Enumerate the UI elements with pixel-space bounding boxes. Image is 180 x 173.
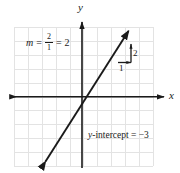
y-axis-label: y: [78, 2, 83, 13]
run-tick-label: 1: [119, 64, 124, 73]
slope-run: 1: [45, 43, 53, 52]
intercept-value: −3: [139, 130, 149, 140]
coordinate-plane-figure: y x m = 2 1 = 2 2 1 y-intercept = −3: [0, 0, 180, 173]
slope-fraction: 2 1: [45, 33, 53, 52]
slope-equals-2: =: [56, 38, 62, 48]
intercept-word: -intercept: [92, 130, 128, 140]
rise-tick-label: 2: [133, 49, 138, 58]
rise-run-triangle: [118, 44, 131, 63]
slope-variable: m: [26, 38, 33, 48]
graph-canvas: [0, 0, 180, 173]
slope-annotation: m = 2 1 = 2: [26, 33, 70, 52]
slope-equals-1: =: [36, 38, 42, 48]
x-axis-label: x: [169, 90, 174, 101]
intercept-equals: =: [131, 130, 136, 140]
y-intercept-annotation: y-intercept = −3: [88, 131, 149, 141]
slope-value: 2: [65, 38, 70, 48]
slope-rise: 2: [45, 33, 53, 42]
